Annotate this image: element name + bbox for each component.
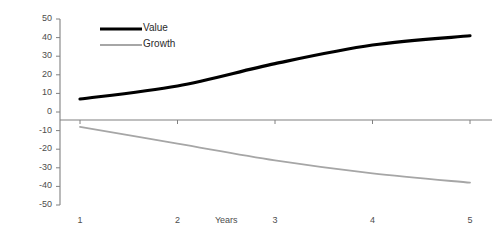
y-axis-tick-label: -30 [18, 163, 52, 172]
data-series-group [80, 36, 470, 183]
y-axis-tick-label: -10 [18, 126, 52, 135]
legend-label-value: Value [143, 23, 168, 33]
legend-label-growth: Growth [143, 39, 175, 49]
chart-plot-area [0, 0, 504, 240]
y-axis-tick-label: -40 [18, 181, 52, 190]
y-axis-tick-label: 30 [18, 51, 52, 60]
line-chart: 50403020100-10-20-30-40-50 12345 Years V… [0, 0, 504, 240]
y-axis-tick-label: -20 [18, 144, 52, 153]
y-axis-ticks [56, 19, 60, 205]
x-axis-tick-label: 2 [158, 216, 198, 225]
x-axis-title: Years [196, 216, 256, 225]
y-axis-tick-label: 50 [18, 14, 52, 23]
x-axis-ticks [80, 120, 470, 124]
x-axis-tick-label: 1 [60, 216, 100, 225]
x-axis-tick-label: 5 [450, 216, 490, 225]
y-axis-tick-label: 0 [18, 107, 52, 116]
y-axis-tick-label: -50 [18, 200, 52, 209]
x-axis-tick-label: 4 [353, 216, 393, 225]
y-axis-tick-label: 20 [18, 70, 52, 79]
x-axis [60, 120, 492, 124]
y-axis [56, 19, 60, 205]
legend-swatches [100, 29, 142, 45]
y-axis-tick-label: 10 [18, 88, 52, 97]
y-axis-tick-label: 40 [18, 33, 52, 42]
x-axis-tick-label: 3 [255, 216, 295, 225]
series-line-growth [80, 127, 470, 183]
